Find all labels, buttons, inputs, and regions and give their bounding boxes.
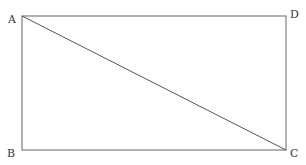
rectangle-diagram: A D B C: [0, 0, 306, 165]
label-c: C: [290, 147, 298, 160]
label-d: D: [290, 8, 299, 21]
diagonal-ac: [22, 16, 286, 150]
label-b: B: [7, 147, 15, 160]
label-a: A: [7, 13, 17, 26]
